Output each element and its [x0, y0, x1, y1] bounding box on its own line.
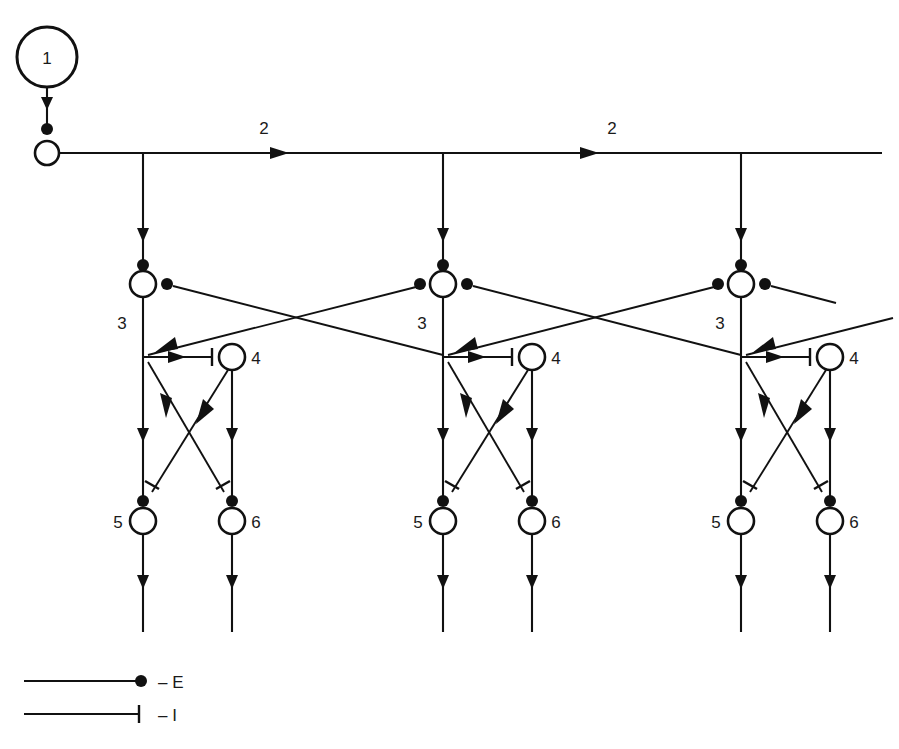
drop-excitatory-terminal-icon-right [735, 259, 747, 271]
module-right-node3-left-terminal-icon [712, 278, 724, 290]
module-center-node5-excitatory-terminal-icon [437, 495, 449, 507]
legend-excitatory-label: – E [158, 673, 184, 692]
module-right-node5-excitatory-terminal-icon [735, 495, 747, 507]
module-center-node-6-circle[interactable] [519, 508, 545, 534]
module-center-node-4-label: 4 [551, 349, 560, 368]
module-right-cross-3-to-6 [746, 362, 822, 492]
module-center: 3 4 [413, 153, 741, 632]
module-left-cross-3-to-6-arrowhead [160, 393, 172, 418]
module-left-node-5-label: 5 [113, 513, 122, 532]
bus-label-2b: 2 [607, 119, 616, 138]
module-right-node-5-label: 5 [711, 513, 720, 532]
module-right-node-6-label: 6 [849, 513, 858, 532]
module-right-node-4-circle[interactable] [817, 344, 843, 370]
module-center-node-5-label: 5 [413, 513, 422, 532]
module-left-node-3-circle[interactable] [130, 271, 156, 297]
module-left-node6-excitatory-terminal-icon [226, 495, 238, 507]
module-left-node-4-circle[interactable] [219, 344, 245, 370]
module-center-node-4-circle[interactable] [519, 344, 545, 370]
module-right-node5-output-arrowhead [735, 575, 747, 589]
module-right-node-3-circle[interactable] [728, 271, 754, 297]
module-left-node5-output-arrowhead [137, 575, 149, 589]
module-right-node-3-label: 3 [715, 314, 724, 333]
module-center-to-right-crosslink [473, 286, 741, 355]
module-left-trunk-arrowhead [137, 428, 149, 442]
module-right-4-to-6-arrowhead [824, 428, 836, 442]
module-left-node5-excitatory-terminal-icon [137, 495, 149, 507]
module-left-node-6-circle[interactable] [219, 508, 245, 534]
module-center-node-5-circle[interactable] [430, 508, 456, 534]
drop-excitatory-terminal-icon-center [437, 259, 449, 271]
module-right-outgoing-crosslink-stub [771, 286, 836, 303]
drop-arrowhead-right [735, 228, 747, 242]
bus-arrowhead-2 [580, 147, 599, 159]
module-left-node-4-label: 4 [251, 349, 260, 368]
circuit-svg: 1 2 2 3 [0, 0, 899, 749]
legend-excitatory-dot-icon [135, 675, 147, 687]
module-right-trunk-arrowhead [735, 428, 747, 442]
source-oscillator-group: 1 [17, 27, 77, 135]
module-right-incoming-crosslink-arrowhead [752, 337, 776, 353]
source-excitatory-terminal-icon [41, 123, 53, 135]
legend-inhibitory-label: – I [158, 706, 177, 725]
module-center-node6-excitatory-terminal-icon [526, 495, 538, 507]
bus-label-2a: 2 [259, 119, 268, 138]
neural-circuit-diagram: 1 2 2 3 [0, 0, 899, 749]
module-left-node-5-circle[interactable] [130, 508, 156, 534]
module-left-cross-3-to-6 [148, 362, 224, 492]
module-center-trunk-arrowhead [437, 428, 449, 442]
module-right-node-4-label: 4 [849, 349, 858, 368]
right-to-center-crosslink [448, 286, 718, 355]
module-left-4-to-6-arrowhead [226, 428, 238, 442]
module-right-node3-right-terminal-icon [759, 278, 771, 290]
module-left-node3-right-terminal-icon [161, 278, 173, 290]
bus-arrowhead-1 [270, 147, 289, 159]
bus-origin-circle[interactable] [35, 141, 59, 165]
source-axon-arrowhead [41, 97, 53, 110]
module-right-node-6-circle[interactable] [817, 508, 843, 534]
module-left-to-center-crosslink [173, 286, 443, 355]
module-center-cross-3-to-6 [448, 362, 524, 492]
module-left-node6-output-arrowhead [226, 575, 238, 589]
module-right-node-5-circle[interactable] [728, 508, 754, 534]
module-center-4-to-6-arrowhead [526, 428, 538, 442]
module-right-node6-output-arrowhead [824, 575, 836, 589]
module-right-cross-3-to-6-arrowhead [758, 393, 770, 418]
module-left-node-3-label: 3 [117, 314, 126, 333]
module-right: 3 4 5 [711, 153, 893, 632]
module-right-3-to-4-arrowhead [766, 351, 784, 363]
module-center-cross-4-to-5-arrowhead [496, 399, 514, 424]
center-to-left-crosslink [148, 286, 420, 355]
node-1-label: 1 [42, 49, 51, 68]
module-center-node-3-label: 3 [417, 314, 426, 333]
bus-origin-group [35, 141, 59, 165]
right-to-center-crosslink-arrowhead [454, 337, 478, 353]
module-left: 3 4 [113, 153, 443, 632]
main-bus: 2 2 [59, 119, 882, 159]
drop-arrowhead-center [437, 228, 449, 242]
module-center-3-to-4-arrowhead [468, 351, 486, 363]
module-center-node5-output-arrowhead [437, 575, 449, 589]
module-center-node6-output-arrowhead [526, 575, 538, 589]
module-center-node3-right-terminal-icon [461, 278, 473, 290]
module-center-node-6-label: 6 [551, 513, 560, 532]
module-left-node-6-label: 6 [251, 513, 260, 532]
module-right-node6-excitatory-terminal-icon [824, 495, 836, 507]
module-left-cross-4-to-5-arrowhead [196, 399, 214, 424]
module-center-node-3-circle[interactable] [430, 271, 456, 297]
drop-excitatory-terminal-icon-left [137, 259, 149, 271]
module-right-cross-4-to-5-arrowhead [794, 399, 812, 424]
module-left-3-to-4-arrowhead [168, 351, 186, 363]
drop-arrowhead-left [137, 228, 149, 242]
module-center-cross-3-to-6-arrowhead [460, 393, 472, 418]
module-center-node3-left-terminal-icon [414, 278, 426, 290]
center-to-left-crosslink-arrowhead [154, 337, 178, 353]
legend: – E – I [24, 673, 184, 725]
